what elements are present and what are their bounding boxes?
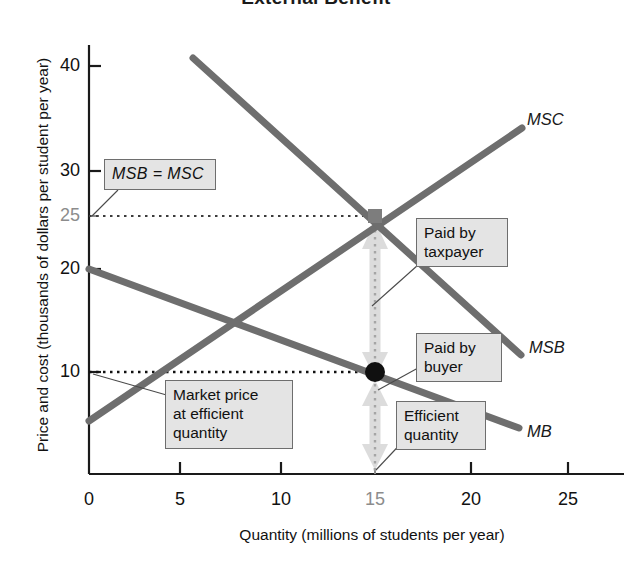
callout-market-price: Market price at efficient quantity [165, 380, 293, 449]
callout-efficient-quantity: Efficient quantity [396, 401, 486, 450]
market-price-marker [365, 362, 385, 382]
callout-paid-by-taxpayer: Paid by taxpayer [416, 218, 508, 267]
y-axis-title: Price and cost (thousands of dollars per… [34, 45, 52, 465]
x-tick-label-0: 0 [69, 489, 109, 510]
y-tick-marks [89, 66, 101, 372]
y-tick-label-25: 25 [36, 205, 80, 226]
x-tick-label-15: 15 [355, 489, 395, 510]
callout-msb-equals-msc: MSB = MSC [104, 159, 216, 190]
curve-msb [193, 58, 521, 355]
curve-label-msb: MSB [529, 338, 565, 357]
x-tick-label-5: 5 [160, 489, 200, 510]
curve-label-mb: MB [527, 422, 552, 441]
y-tick-label-20: 20 [36, 258, 80, 279]
x-axis-title: Quantity (millions of students per year) [132, 526, 612, 544]
y-tick-label-40: 40 [36, 55, 80, 76]
callout-paid-by-buyer: Paid by buyer [416, 333, 502, 382]
x-tick-label-10: 10 [261, 489, 301, 510]
y-tick-label-10: 10 [36, 361, 80, 382]
x-tick-label-25: 25 [548, 489, 588, 510]
x-tick-label-20: 20 [451, 489, 491, 510]
y-tick-label-30: 30 [36, 160, 80, 181]
equilibrium-marker [368, 209, 382, 223]
chart-plot-area [0, 0, 632, 569]
chart-figure: External Benefit [0, 0, 632, 569]
curve-label-msc: MSC [527, 110, 564, 129]
